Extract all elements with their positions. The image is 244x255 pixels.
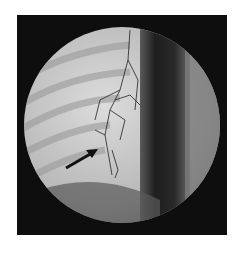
circular-field — [20, 25, 230, 235]
xray-image — [0, 0, 244, 255]
